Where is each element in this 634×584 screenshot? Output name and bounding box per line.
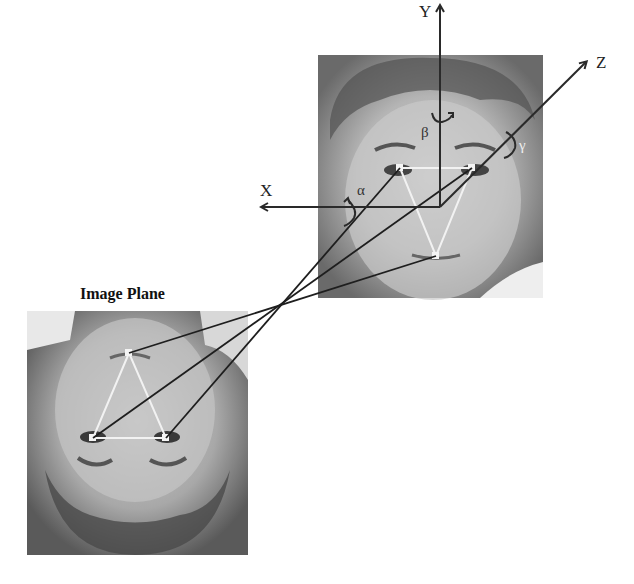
- projection-line-right-eye: [93, 168, 472, 438]
- image-plane-photo: [27, 311, 248, 555]
- image-plane-label: Image Plane: [80, 285, 165, 303]
- head-photo-3d: [318, 55, 543, 300]
- gamma-label: γ: [519, 138, 526, 153]
- projection-lines: [93, 168, 472, 438]
- head-pose-projection-diagram: Y X Z α β γ Image Plane: [0, 0, 634, 584]
- z-axis-label: Z: [596, 54, 606, 71]
- y-axis-label: Y: [419, 3, 431, 20]
- x-axis-label: X: [260, 182, 272, 199]
- beta-label: β: [421, 125, 429, 140]
- projection-line-nose: [129, 256, 436, 353]
- alpha-label: α: [357, 183, 365, 198]
